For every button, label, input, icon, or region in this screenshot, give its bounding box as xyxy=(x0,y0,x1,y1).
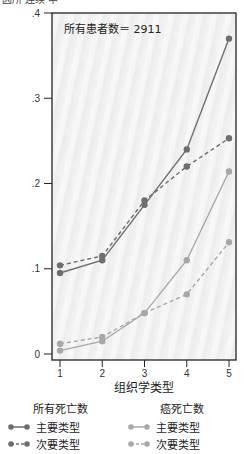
solid-light-line-icon xyxy=(128,423,150,431)
y-tick-label: .3 xyxy=(32,93,41,104)
data-point xyxy=(57,270,63,276)
data-point xyxy=(99,334,105,340)
legend-item-label: 次要类型 xyxy=(36,436,80,452)
data-point xyxy=(57,347,63,353)
data-point xyxy=(141,197,147,203)
x-tick-label: 5 xyxy=(226,368,232,379)
x-axis: 12345 xyxy=(57,360,232,379)
data-point xyxy=(184,146,190,152)
dashed-light-line-icon xyxy=(128,440,150,448)
data-point xyxy=(184,291,190,297)
data-point xyxy=(226,239,232,245)
plot-area xyxy=(52,13,236,360)
y-tick-label: 0 xyxy=(34,349,40,360)
legend-group-all-deaths: 所有死亡数 主要类型 次要类型 xyxy=(8,402,88,452)
x-tick-label: 3 xyxy=(142,368,148,379)
legend: 所有死亡数 主要类型 次要类型 癌死亡数 主要类型 次要类型 xyxy=(0,402,244,454)
y-tick-label: .2 xyxy=(32,178,41,189)
data-point xyxy=(57,262,63,268)
x-tick-label: 1 xyxy=(57,368,63,379)
data-point xyxy=(184,257,190,263)
y-tick-label: .4 xyxy=(32,8,41,19)
data-point xyxy=(226,35,232,41)
legend-item-cancer-main: 主要类型 xyxy=(128,418,204,435)
legend-group-title: 所有死亡数 xyxy=(8,402,88,418)
x-axis-label: 组织学类型 xyxy=(114,380,174,395)
data-point xyxy=(184,163,190,169)
x-tick-label: 4 xyxy=(184,368,190,379)
legend-item-all-minor: 次要类型 xyxy=(8,435,88,452)
line-chart: 因所 连续 中 0.1.2.3.4 12345 所有患者数＝ 2911 组织学类… xyxy=(0,0,244,402)
legend-item-label: 主要类型 xyxy=(156,419,200,435)
legend-item-label: 主要类型 xyxy=(36,419,80,435)
y-axis: 0.1.2.3.4 xyxy=(32,8,52,360)
y-tick-label: .1 xyxy=(32,263,41,274)
legend-group-title: 癌死亡数 xyxy=(128,402,204,418)
legend-group-cancer-deaths: 癌死亡数 主要类型 次要类型 xyxy=(128,402,204,452)
dashed-dark-line-icon xyxy=(8,440,30,448)
cut-off-header-text: 因所 连续 中 xyxy=(2,0,58,5)
data-point xyxy=(141,310,147,316)
legend-item-cancer-minor: 次要类型 xyxy=(128,435,204,452)
data-point xyxy=(226,135,232,141)
solid-dark-line-icon xyxy=(8,423,30,431)
data-point xyxy=(57,341,63,347)
x-tick-label: 2 xyxy=(99,368,105,379)
legend-item-all-main: 主要类型 xyxy=(8,418,88,435)
data-point xyxy=(226,168,232,174)
legend-item-label: 次要类型 xyxy=(156,436,200,452)
data-point xyxy=(99,253,105,259)
patient-count-annotation: 所有患者数＝ 2911 xyxy=(64,22,162,36)
